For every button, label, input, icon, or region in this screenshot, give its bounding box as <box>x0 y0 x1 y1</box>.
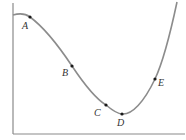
point-e-label: E <box>157 77 164 88</box>
function-graph: A B C D E <box>0 0 186 140</box>
point-d-label: D <box>116 117 125 128</box>
point-d-marker <box>120 112 123 115</box>
point-e-marker <box>153 77 156 80</box>
point-b-label: B <box>62 67 68 78</box>
point-c-marker <box>104 103 107 106</box>
point-c-label: C <box>94 107 101 118</box>
function-curve <box>13 2 177 114</box>
point-b-marker <box>70 64 73 67</box>
point-a-label: A <box>21 20 29 31</box>
point-a-marker <box>28 15 31 18</box>
